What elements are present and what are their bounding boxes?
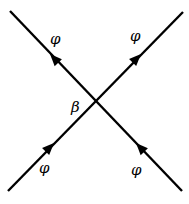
label-outgoing-left: φ [50,30,61,48]
label-incoming-left: φ [39,159,50,177]
feynman-diagram: φ φ β φ φ [0,0,189,204]
label-incoming-right: φ [131,161,142,179]
label-vertex: β [70,98,80,116]
label-outgoing-right: φ [130,27,141,45]
diagram-svg: φ φ β φ φ [0,0,189,204]
